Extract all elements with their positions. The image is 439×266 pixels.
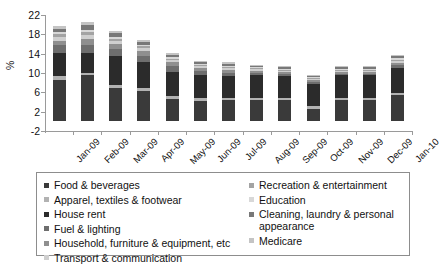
bar-segment <box>194 75 207 98</box>
x-axis-tick-mark <box>412 131 413 135</box>
legend-swatch-icon <box>44 241 49 246</box>
y-axis-tick-label: 10 <box>28 68 40 78</box>
x-axis-tick-mark <box>73 131 74 135</box>
y-axis-tick-labels: 2218141062-2 <box>14 0 40 166</box>
y-axis-tick-mark <box>41 92 45 93</box>
bar-segment <box>222 100 235 121</box>
stacked-bar[interactable] <box>194 61 207 122</box>
y-axis-tick-label: 18 <box>28 29 40 39</box>
legend-item[interactable]: Cleaning, laundry & personal appearance <box>249 208 407 232</box>
bars-container <box>45 15 412 131</box>
y-axis-tick-label: 2 <box>34 107 40 117</box>
bar-segment <box>391 68 404 93</box>
bar-segment <box>166 72 179 97</box>
stacked-bar[interactable] <box>166 53 179 122</box>
x-axis-tick-mark <box>299 131 300 135</box>
x-axis-tick-mark <box>130 131 131 135</box>
bar-segment <box>81 45 94 53</box>
x-axis-tick-mark <box>271 131 272 135</box>
bar-slot <box>307 15 320 131</box>
x-axis-tick-label: Nov-09 <box>356 136 385 165</box>
x-axis-tick-label: Jan-10 <box>412 136 439 164</box>
stacked-bar[interactable] <box>278 66 291 121</box>
stacked-bar[interactable] <box>335 66 348 121</box>
legend-label: Food & beverages <box>54 179 140 191</box>
bar-slot <box>137 15 150 131</box>
legend-swatch-icon <box>249 183 254 188</box>
stacked-bar[interactable] <box>137 40 150 121</box>
bar-slot <box>250 15 263 131</box>
bar-segment <box>194 101 207 122</box>
x-axis-tick-label: Oct-09 <box>328 136 356 164</box>
bar-slot <box>53 15 66 131</box>
stacked-bar[interactable] <box>222 62 235 121</box>
x-axis-tick-mark <box>186 131 187 135</box>
legend-item[interactable]: Household, furniture & equipment, etc <box>44 237 240 249</box>
y-axis-tick-mark <box>41 34 45 35</box>
x-axis-tick-mark <box>158 131 159 135</box>
bar-segment <box>81 75 94 121</box>
y-axis-tick-label: 22 <box>28 10 40 20</box>
legend-item[interactable]: Medicare <box>249 235 407 247</box>
stacked-bar[interactable] <box>250 65 263 121</box>
bar-segment <box>53 45 66 52</box>
stacked-bar[interactable] <box>363 66 376 121</box>
legend-label: Fuel & lighting <box>54 223 121 235</box>
x-axis-tick-label: Jan-09 <box>74 136 102 164</box>
x-axis-tick-label: Apr-09 <box>158 136 186 164</box>
stacked-bar[interactable] <box>109 31 122 121</box>
x-axis-tick-label: Feb-09 <box>102 136 131 165</box>
bar-segment <box>335 75 348 98</box>
stacked-bar[interactable] <box>81 22 94 121</box>
stacked-bar[interactable] <box>307 75 320 122</box>
y-axis-tick-mark <box>41 112 45 113</box>
bar-slot <box>81 15 94 131</box>
bar-slot <box>391 15 404 131</box>
legend-item[interactable]: Fuel & lighting <box>44 223 240 235</box>
legend-item[interactable]: House rent <box>44 208 240 220</box>
x-axis-tick-label: Dec-09 <box>385 136 414 165</box>
y-axis-tick-mark <box>41 15 45 16</box>
bar-segment <box>307 109 320 122</box>
x-axis-tick-mark <box>356 131 357 135</box>
legend-label: Apparel, textiles & footwear <box>54 194 182 206</box>
legend-item[interactable]: Apparel, textiles & footwear <box>44 194 240 206</box>
y-axis-tick-label: -2 <box>31 126 40 136</box>
bar-slot <box>222 15 235 131</box>
legend-swatch-icon <box>44 197 49 202</box>
x-axis-tick-mark <box>327 131 328 135</box>
y-axis-tick-mark <box>41 73 45 74</box>
stacked-bar[interactable] <box>53 26 66 122</box>
legend-swatch-icon <box>44 255 49 260</box>
x-axis-tick-label: Sep-09 <box>300 136 329 165</box>
bar-slot <box>278 15 291 131</box>
y-axis-tick-label: 14 <box>28 49 40 59</box>
legend-label: Transport & communication <box>54 252 182 264</box>
legend-swatch-icon <box>249 197 254 202</box>
legend-item[interactable]: Education <box>249 194 407 206</box>
bar-segment <box>335 100 348 121</box>
legend-label: Recreation & entertainment <box>259 179 387 191</box>
legend-item[interactable]: Transport & communication <box>44 252 240 264</box>
legend-label: Medicare <box>259 235 302 247</box>
bar-slot <box>109 15 122 131</box>
bar-segment <box>250 100 263 122</box>
legend-item[interactable]: Recreation & entertainment <box>249 179 407 191</box>
legend-column-right: Recreation & entertainmentEducationClean… <box>249 179 407 249</box>
x-axis-tick-mark <box>101 131 102 135</box>
legend-swatch-icon <box>249 212 254 217</box>
x-axis-tick-label: Aug-09 <box>272 136 301 165</box>
legend-item[interactable]: Food & beverages <box>44 179 240 191</box>
bar-segment <box>278 100 291 121</box>
bar-segment <box>137 91 150 121</box>
y-axis-tick-mark <box>41 54 45 55</box>
bar-segment <box>278 76 291 98</box>
x-axis-tick-label: Jul-09 <box>242 136 268 162</box>
legend-label: Education <box>259 194 306 206</box>
stacked-bar[interactable] <box>391 55 404 122</box>
bar-segment <box>109 56 122 85</box>
bar-segment <box>81 53 94 73</box>
legend-column-left: Food & beveragesApparel, textiles & foot… <box>44 179 240 266</box>
x-axis-tick-label: Mar-09 <box>130 136 159 165</box>
x-axis-tick-mark <box>243 131 244 135</box>
